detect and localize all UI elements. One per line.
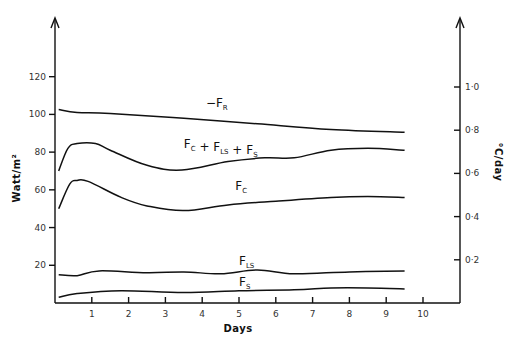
right-y-tick-label: 0·8 xyxy=(465,125,480,135)
label-f-s: FS xyxy=(239,275,251,291)
x-tick-label: 9 xyxy=(383,309,389,319)
left-y-axis-title: Watt/m² xyxy=(11,154,22,203)
label-f-ls: FLS xyxy=(239,254,255,270)
right-y-tick-label: 0·4 xyxy=(465,212,480,222)
x-ticks: 12345678910 xyxy=(89,297,429,319)
y-tick-label: 20 xyxy=(35,260,47,270)
x-tick-label: 10 xyxy=(417,309,429,319)
axes xyxy=(51,18,464,303)
x-tick-label: 1 xyxy=(89,309,95,319)
x-tick-label: 6 xyxy=(273,309,279,319)
x-tick-label: 5 xyxy=(236,309,242,319)
label-neg-f-r: −FR xyxy=(206,96,228,112)
right-y-axis-title: °C/day xyxy=(493,142,504,181)
x-tick-label: 3 xyxy=(163,309,169,319)
curve-f-s xyxy=(59,288,405,298)
label-f-c: FC xyxy=(235,179,247,195)
y-tick-label: 120 xyxy=(29,72,46,82)
x-tick-label: 7 xyxy=(310,309,316,319)
y-tick-label: 60 xyxy=(35,185,47,195)
curve-f-ls xyxy=(59,270,405,276)
left-y-ticks: 20406080100120 xyxy=(29,72,55,271)
right-y-tick-label: 0·6 xyxy=(465,168,480,178)
x-axis-title: Days xyxy=(223,323,252,334)
series-labels: −FRFC + FLS + FSFCFLSFS xyxy=(184,96,258,291)
right-y-tick-label: 0·2 xyxy=(465,255,479,265)
y-tick-label: 100 xyxy=(29,109,46,119)
x-tick-label: 2 xyxy=(126,309,132,319)
curve-neg-f-r xyxy=(59,110,405,133)
label-sum: FC + FLS + FS xyxy=(184,137,258,159)
y-tick-label: 80 xyxy=(35,147,47,157)
curve-f-c xyxy=(59,180,405,211)
right-y-tick-label: 1·0 xyxy=(465,82,480,92)
x-tick-label: 8 xyxy=(347,309,353,319)
y-tick-label: 40 xyxy=(35,223,47,233)
right-y-ticks: 0·20·40·60·81·0 xyxy=(454,82,480,265)
x-tick-label: 4 xyxy=(199,309,205,319)
series-curves xyxy=(59,110,405,298)
flux-chart: 12345678910 20406080100120 0·20·40·60·81… xyxy=(0,0,513,348)
